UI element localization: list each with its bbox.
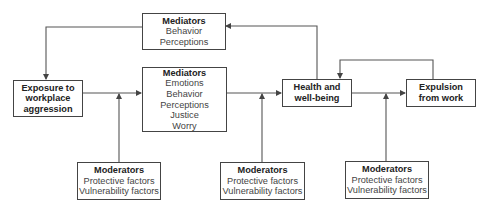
expulsion-line-1: Expulsion xyxy=(419,82,463,93)
moderators-3-node: Moderators Protective factors Vulnerabil… xyxy=(345,161,429,199)
moderators-2-node: Moderators Protective factors Vulnerabil… xyxy=(220,162,305,200)
moderators-1-title: Moderators xyxy=(94,165,144,176)
expulsion-line-2: from work xyxy=(419,93,463,104)
mediators-mid-item: Emotions xyxy=(165,78,203,89)
mediators-mid-item: Worry xyxy=(172,121,196,132)
moderators-1-item: Protective factors xyxy=(84,176,155,187)
health-line-1: Health and xyxy=(294,82,341,93)
mediators-mid-node: Mediators Emotions Behavior Perceptions … xyxy=(142,67,227,132)
moderators-1-item: Vulnerability factors xyxy=(79,186,159,197)
exposure-line-1: Exposure to xyxy=(21,83,74,94)
mediators-mid-title: Mediators xyxy=(163,68,206,79)
health-line-2: well-being xyxy=(295,93,340,104)
health-node: Health and well-being xyxy=(282,79,352,107)
exposure-node: Exposure to workplace aggression xyxy=(13,80,83,117)
moderators-2-title: Moderators xyxy=(237,165,287,176)
moderators-3-title: Moderators xyxy=(362,164,412,175)
exposure-line-2: workplace xyxy=(26,93,71,104)
mediators-top-item: Perceptions xyxy=(160,37,209,48)
moderators-1-node: Moderators Protective factors Vulnerabil… xyxy=(77,162,161,200)
mediators-top-title: Mediators xyxy=(162,16,205,27)
mediators-mid-item: Justice xyxy=(170,110,199,121)
moderators-2-item: Protective factors xyxy=(227,176,298,187)
moderators-3-item: Protective factors xyxy=(352,175,423,186)
exposure-line-3: aggression xyxy=(23,104,72,115)
expulsion-node: Expulsion from work xyxy=(406,79,476,107)
moderators-3-item: Vulnerability factors xyxy=(347,185,427,196)
mediators-mid-item: Perceptions xyxy=(160,100,209,111)
mediators-top-node: Mediators Behavior Perceptions xyxy=(142,13,226,50)
mediators-top-item: Behavior xyxy=(166,26,202,37)
moderators-2-item: Vulnerability factors xyxy=(223,186,303,197)
mediators-mid-item: Behavior xyxy=(166,89,202,100)
